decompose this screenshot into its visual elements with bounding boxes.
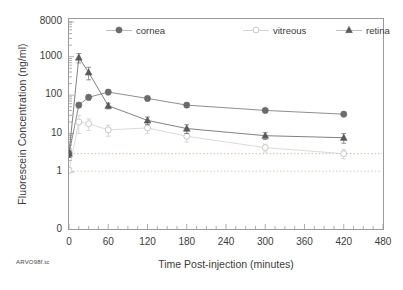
legend-label-cornea: cornea — [136, 25, 165, 36]
legend-line-cornea — [106, 30, 132, 31]
data-point-vitreous — [76, 119, 82, 125]
y-tick-label-1: 1 — [18, 165, 62, 176]
chart-legend: corneavitreousretina — [68, 22, 384, 40]
legend-marker-vitreous — [251, 25, 261, 35]
data-point-retina — [75, 54, 82, 60]
series-retina — [69, 54, 347, 158]
y-tick-label-100: 100 — [18, 88, 62, 99]
x-tick-label-360: 360 — [285, 236, 325, 247]
legend-symbol-vitreous — [253, 27, 259, 33]
x-tick-label-300: 300 — [245, 236, 285, 247]
x-tick-label-480: 480 — [363, 236, 403, 247]
series-cornea — [69, 89, 347, 157]
x-tick-label-240: 240 — [206, 236, 246, 247]
data-point-retina — [340, 134, 347, 140]
x-tick-label-180: 180 — [167, 236, 207, 247]
data-point-vitreous — [145, 125, 151, 131]
legend-label-retina: retina — [366, 25, 390, 36]
legend-item-retina[interactable]: retina — [336, 22, 390, 38]
chart-figure: Fluorescein Concentration (ng/ml) Time P… — [0, 0, 403, 290]
series-vitreous — [69, 115, 347, 173]
legend-item-vitreous[interactable]: vitreous — [243, 22, 306, 38]
x-tick-label-60: 60 — [88, 236, 128, 247]
data-point-vitreous — [86, 121, 92, 127]
series-line-cornea — [69, 92, 344, 154]
y-tick-label-8000: 8000 — [18, 15, 62, 26]
data-point-vitreous — [262, 145, 268, 151]
legend-line-retina — [336, 30, 362, 31]
legend-label-vitreous: vitreous — [273, 25, 306, 36]
x-tick-label-120: 120 — [128, 236, 168, 247]
y-tick-label-10: 10 — [18, 127, 62, 138]
legend-line-vitreous — [243, 30, 269, 31]
y-tick-label-0: 0 — [18, 223, 62, 234]
data-point-cornea — [184, 102, 190, 108]
data-point-cornea — [105, 89, 111, 95]
data-point-vitreous — [184, 133, 190, 139]
plot-area — [68, 18, 384, 230]
data-point-retina — [85, 69, 92, 75]
data-point-cornea — [76, 102, 82, 108]
legend-symbol-cornea — [116, 27, 122, 33]
data-point-cornea — [262, 107, 268, 113]
data-point-cornea — [144, 95, 150, 101]
data-point-cornea — [86, 94, 92, 100]
legend-marker-cornea — [114, 25, 124, 35]
data-point-vitreous — [69, 167, 72, 173]
plot-svg — [69, 19, 383, 229]
y-tick-label-1000: 1000 — [18, 50, 62, 61]
data-point-vitreous — [341, 151, 347, 157]
x-tick-label-0: 0 — [49, 236, 89, 247]
data-point-cornea — [341, 111, 347, 117]
x-tick-label-420: 420 — [324, 236, 364, 247]
data-point-vitreous — [105, 127, 111, 133]
legend-item-cornea[interactable]: cornea — [106, 22, 165, 38]
legend-symbol-retina — [346, 26, 353, 32]
legend-marker-retina — [344, 25, 354, 35]
